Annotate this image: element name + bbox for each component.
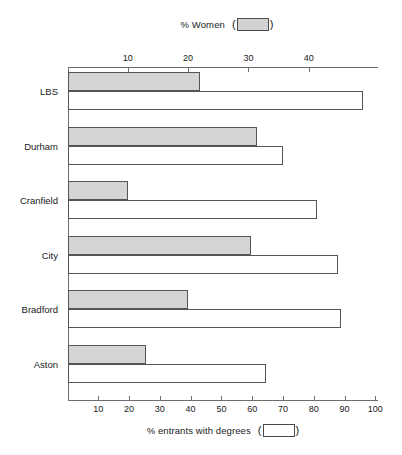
bar-women-cranfield: [68, 181, 128, 200]
top-axis-tick-label: 20: [175, 53, 201, 63]
bottom-axis-tick-label: 70: [270, 404, 296, 414]
category-label-cranfield: Cranfield: [0, 195, 58, 206]
legend-women: % Women ( ): [26, 18, 402, 31]
top-axis-tick: [248, 68, 249, 72]
category-label-aston: Aston: [0, 359, 58, 370]
bar-degrees-aston: [68, 364, 267, 383]
white-outline-swatch-icon: [263, 424, 295, 437]
category-label-bradford: Bradford: [0, 304, 58, 315]
bottom-axis-line: [68, 400, 379, 401]
legend-degrees: % entrants with degrees ( ): [22, 424, 402, 437]
bar-degrees-durham: [68, 146, 283, 165]
bar-women-lbs: [68, 72, 201, 91]
top-axis-tick-label: 30: [235, 53, 261, 63]
category-label-city: City: [0, 249, 58, 260]
top-axis-tick: [309, 68, 310, 72]
bottom-axis-tick-label: 50: [208, 404, 234, 414]
bottom-axis-tick: [191, 396, 192, 400]
top-axis-tick-label: 40: [296, 53, 322, 63]
legend-women-open-paren: (: [232, 19, 236, 30]
bottom-axis-tick: [283, 396, 284, 400]
bottom-axis-tick: [252, 396, 253, 400]
bottom-axis-tick-label: 10: [85, 404, 111, 414]
bottom-axis-tick-label: 30: [147, 404, 173, 414]
legend-women-label: % Women: [181, 19, 225, 30]
bottom-axis-tick: [129, 396, 130, 400]
legend-women-close-paren: ): [270, 19, 274, 30]
legend-degrees-close-paren: ): [296, 425, 300, 436]
top-axis-tick: [128, 68, 129, 72]
category-label-durham: Durham: [0, 140, 58, 151]
top-axis-tick-label: 10: [115, 53, 141, 63]
legend-degrees-label: % entrants with degrees: [147, 425, 251, 436]
bottom-axis-tick: [221, 396, 222, 400]
bottom-axis-tick-label: 40: [178, 404, 204, 414]
bar-women-aston: [68, 345, 146, 364]
bottom-axis-tick-label: 80: [301, 404, 327, 414]
top-axis-tick: [188, 68, 189, 72]
category-label-lbs: LBS: [0, 86, 58, 97]
bottom-axis-tick: [160, 396, 161, 400]
bottom-axis-tick: [345, 396, 346, 400]
legend-degrees-open-paren: (: [258, 425, 262, 436]
bar-degrees-cranfield: [68, 200, 317, 219]
top-axis-line: [68, 67, 379, 68]
bottom-axis-tick-label: 60: [239, 404, 265, 414]
bottom-axis-tick: [375, 396, 376, 400]
bar-degrees-bradford: [68, 309, 342, 328]
bottom-axis-tick: [98, 396, 99, 400]
gray-filled-swatch-icon: [237, 18, 269, 31]
bar-women-durham: [68, 127, 258, 146]
bar-women-city: [68, 236, 252, 255]
bar-degrees-city: [68, 255, 339, 274]
bar-women-bradford: [68, 290, 189, 309]
bottom-axis-tick-label: 100: [362, 404, 388, 414]
bottom-axis-tick-label: 90: [332, 404, 358, 414]
bar-degrees-lbs: [68, 91, 363, 110]
bottom-axis-tick: [314, 396, 315, 400]
bottom-axis-tick-label: 20: [116, 404, 142, 414]
bar-chart: % Women ( ) % entrants with degrees ( ) …: [0, 0, 402, 455]
